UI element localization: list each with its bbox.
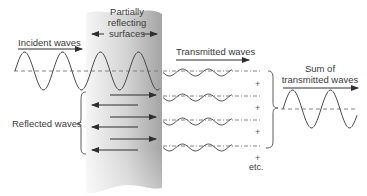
surfaces-label-line1: Partially xyxy=(100,6,154,17)
plus-sign: + xyxy=(255,104,260,113)
etc-label: etc. xyxy=(249,162,264,173)
transmitted-waves-label: Transmitted waves xyxy=(176,46,255,57)
transmitted-wave xyxy=(163,69,232,76)
transmitted-wave xyxy=(163,118,232,125)
wave-reflection-diagram xyxy=(0,0,367,196)
transmitted-waves xyxy=(163,69,262,151)
sum-label-line1: Sum of xyxy=(280,63,360,74)
reflected-waves-label: Reflected waves xyxy=(12,118,82,129)
surfaces-label-line3: surfaces xyxy=(100,28,154,39)
plus-sign: + xyxy=(255,128,260,137)
sum-label-line2: transmitted waves xyxy=(280,74,360,85)
surfaces-label-line2: reflecting xyxy=(100,17,154,28)
plus-sign: + xyxy=(255,80,260,89)
transmitted-wave xyxy=(163,94,232,101)
sum-brace xyxy=(266,71,278,148)
incident-waves-label: Incident waves xyxy=(18,37,81,48)
transmitted-wave xyxy=(163,144,232,151)
